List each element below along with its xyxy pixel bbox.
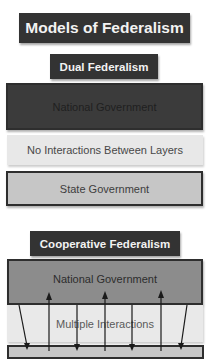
- dual-federalism-label: Dual Federalism: [50, 54, 158, 79]
- coop-state-government-layer: [7, 345, 204, 359]
- dual-national-government-layer: National Government: [6, 83, 203, 130]
- dual-state-government-layer: State Government: [6, 171, 203, 206]
- coop-multiple-interactions-layer: Multiple Interactions: [7, 305, 203, 342]
- diagram-title: Models of Federalism: [19, 13, 190, 43]
- coop-national-government-text: National Government: [53, 273, 157, 285]
- coop-multiple-interactions-text: Multiple Interactions: [56, 318, 154, 330]
- cooperative-federalism-label: Cooperative Federalism: [30, 231, 180, 256]
- dual-state-government-text: State Government: [60, 183, 149, 195]
- coop-national-government-layer: National Government: [7, 259, 203, 305]
- dual-no-interactions-layer: No Interactions Between Layers: [7, 135, 203, 165]
- dual-no-interactions-text: No Interactions Between Layers: [27, 144, 183, 156]
- dual-national-government-text: National Government: [53, 101, 157, 113]
